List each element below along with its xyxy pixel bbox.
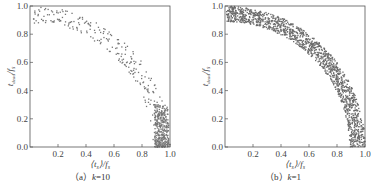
- x-axis-label: ⟨ts⟩/fs: [285, 159, 306, 170]
- x-tick-label: 0.2: [52, 149, 63, 159]
- scatter-points: [33, 7, 171, 148]
- x-tick-label: 0.6: [303, 149, 315, 159]
- x-tick-label: 0.8: [136, 149, 148, 159]
- x-tick-label: 0.8: [331, 149, 343, 159]
- x-tick-label: 0.2: [247, 149, 258, 159]
- caption-a: （a）k=10: [70, 170, 110, 183]
- y-axis-label: tdead/fs: [200, 66, 211, 86]
- y-tick-label: 0.8: [17, 29, 29, 39]
- y-axis-label: tdead/fs: [5, 66, 16, 86]
- caption-prefix: （b）: [265, 172, 288, 182]
- caption-value: =10: [96, 172, 110, 182]
- scatter-panel-b: 0.00.20.40.60.81.00.20.40.60.81.0⟨ts⟩/fs…: [195, 0, 373, 186]
- y-tick-label: 0.8: [212, 29, 224, 39]
- y-tick-label: 0.2: [17, 114, 28, 124]
- scatter-plot-a: 0.00.20.40.60.81.00.20.40.60.81.0⟨ts⟩/fs…: [0, 0, 186, 186]
- caption-value: =1: [292, 172, 302, 182]
- scatter-points: [226, 6, 366, 148]
- caption-prefix: （a）: [70, 172, 92, 182]
- x-tick-label: 1.0: [359, 149, 371, 159]
- scatter-panel-a: 0.00.20.40.60.81.00.20.40.60.81.0⟨ts⟩/fs…: [0, 0, 186, 186]
- y-tick-label: 0.6: [17, 57, 29, 67]
- y-tick-label: 1.0: [17, 1, 29, 11]
- caption-b: （b）k=1: [265, 170, 301, 183]
- x-tick-label: 0.6: [108, 149, 120, 159]
- x-axis-label: ⟨ts⟩/fs: [90, 159, 111, 170]
- y-tick-label: 0.4: [17, 86, 29, 96]
- y-tick-label: 0.2: [212, 114, 223, 124]
- y-tick-label: 0.6: [212, 57, 224, 67]
- x-tick-label: 0.4: [275, 149, 287, 159]
- y-tick-label: 0.0: [17, 142, 29, 152]
- x-tick-label: 1.0: [164, 149, 176, 159]
- y-tick-label: 0.0: [212, 142, 224, 152]
- y-tick-label: 0.4: [212, 86, 224, 96]
- scatter-plot-b: 0.00.20.40.60.81.00.20.40.60.81.0⟨ts⟩/fs…: [195, 0, 373, 186]
- y-tick-label: 1.0: [212, 1, 224, 11]
- plot-frame: [30, 6, 170, 147]
- x-tick-label: 0.4: [80, 149, 92, 159]
